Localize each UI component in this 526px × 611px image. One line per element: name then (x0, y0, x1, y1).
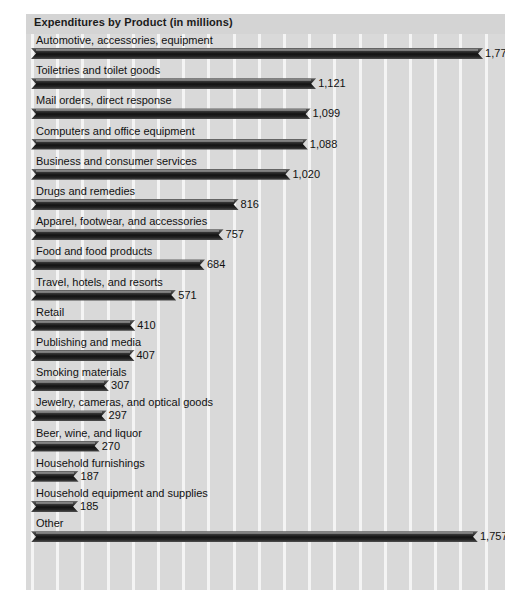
bar-value-label: 187 (81, 470, 99, 483)
bar-category-label: Toiletries and toilet goods (36, 64, 160, 77)
bar-row: Other1,757 (26, 517, 505, 547)
bar-highlight (36, 79, 311, 81)
bar-value-label: 270 (102, 440, 120, 453)
bar-fill (31, 229, 224, 240)
bar-value-label: 410 (137, 319, 155, 332)
bar-highlight (36, 49, 478, 51)
bar-rows: Automotive, accessories, equipment1,777T… (26, 34, 505, 590)
bar-category-label: Smoking materials (36, 366, 126, 379)
bar-highlight (36, 381, 104, 383)
bar-fill (31, 501, 78, 512)
bar[interactable] (31, 290, 176, 301)
bar-value-label: 1,777 (485, 47, 505, 60)
bar-fill (31, 320, 135, 331)
bar-highlight (36, 200, 234, 202)
bar-category-label: Computers and office equipment (36, 125, 195, 138)
chart-title: Expenditures by Product (in millions) (34, 16, 233, 28)
bar-category-label: Other (36, 517, 64, 530)
bar[interactable] (31, 380, 109, 391)
bar-fill (31, 108, 311, 119)
bar-value-label: 684 (207, 258, 225, 271)
bar-category-label: Drugs and remedies (36, 185, 135, 198)
bar-fill (31, 410, 107, 421)
bar-fill (31, 199, 239, 210)
bar-value-label: 1,020 (293, 168, 321, 181)
bar-row: Food and food products684 (26, 245, 505, 275)
bar[interactable] (31, 441, 100, 452)
bar-category-label: Mail orders, direct response (36, 94, 172, 107)
bar-row: Apparel, footwear, and accessories757 (26, 215, 505, 245)
bar-value-label: 757 (226, 228, 244, 241)
bar[interactable] (31, 259, 205, 270)
bar-fill (31, 169, 291, 180)
bar-highlight (36, 230, 219, 232)
bar-highlight (36, 411, 102, 413)
bar-value-label: 307 (111, 379, 129, 392)
bar-fill (31, 380, 109, 391)
bar-row: Toiletries and toilet goods1,121 (26, 64, 505, 94)
bar-highlight (36, 291, 171, 293)
bar-value-label: 1,099 (313, 107, 341, 120)
bar-value-label: 185 (80, 500, 98, 513)
bar-highlight (36, 170, 286, 172)
bar-highlight (36, 351, 130, 353)
bar-highlight (36, 109, 306, 111)
bar-fill (31, 350, 135, 361)
bar-fill (31, 531, 478, 542)
bar-category-label: Beer, wine, and liquor (36, 427, 142, 440)
bar-row: Jewelry, cameras, and optical goods297 (26, 396, 505, 426)
bar[interactable] (31, 78, 316, 89)
bar-row: Household equipment and supplies185 (26, 487, 505, 517)
bar-value-label: 1,088 (310, 138, 338, 151)
bar-value-label: 1,757 (480, 530, 505, 543)
bar-fill (31, 78, 316, 89)
bar-row: Drugs and remedies816 (26, 185, 505, 215)
bar-row: Mail orders, direct response1,099 (26, 94, 505, 124)
bar-category-label: Household furnishings (36, 457, 145, 470)
bar-fill (31, 441, 100, 452)
bar-row: Business and consumer services1,020 (26, 155, 505, 185)
bar-row: Retail410 (26, 306, 505, 336)
bar-category-label: Food and food products (36, 245, 152, 258)
bar[interactable] (31, 199, 239, 210)
bar[interactable] (31, 320, 135, 331)
bar-fill (31, 290, 176, 301)
bar-highlight (36, 442, 95, 444)
bar-highlight (36, 472, 74, 474)
bar[interactable] (31, 108, 311, 119)
bar-highlight (36, 140, 303, 142)
bar[interactable] (31, 501, 78, 512)
bar[interactable] (31, 531, 478, 542)
bar-fill (31, 259, 205, 270)
bar[interactable] (31, 350, 135, 361)
bar-category-label: Household equipment and supplies (36, 487, 208, 500)
bar-value-label: 297 (109, 409, 127, 422)
bar-highlight (36, 321, 130, 323)
bar-category-label: Apparel, footwear, and accessories (36, 215, 207, 228)
bar-row: Computers and office equipment1,088 (26, 125, 505, 155)
bar-category-label: Automotive, accessories, equipment (36, 34, 213, 47)
bar-fill (31, 139, 308, 150)
bar-row: Beer, wine, and liquor270 (26, 427, 505, 457)
chart-panel: Expenditures by Product (in millions) Au… (26, 14, 505, 590)
bar[interactable] (31, 139, 308, 150)
bar-category-label: Travel, hotels, and resorts (36, 276, 163, 289)
bar-row: Travel, hotels, and resorts571 (26, 276, 505, 306)
bar-row: Publishing and media407 (26, 336, 505, 366)
bar[interactable] (31, 169, 291, 180)
bar-category-label: Business and consumer services (36, 155, 197, 168)
bar-highlight (36, 502, 73, 504)
bar-row: Automotive, accessories, equipment1,777 (26, 34, 505, 64)
bar-category-label: Retail (36, 306, 64, 319)
bar-row: Household furnishings187 (26, 457, 505, 487)
bar-fill (31, 471, 79, 482)
bar[interactable] (31, 471, 79, 482)
bar[interactable] (31, 229, 224, 240)
bar[interactable] (31, 410, 107, 421)
bar-row: Smoking materials307 (26, 366, 505, 396)
bar-value-label: 571 (178, 289, 196, 302)
bar-category-label: Jewelry, cameras, and optical goods (36, 396, 213, 409)
bar-category-label: Publishing and media (36, 336, 141, 349)
bar-value-label: 1,121 (318, 77, 346, 90)
bar[interactable] (31, 48, 483, 59)
